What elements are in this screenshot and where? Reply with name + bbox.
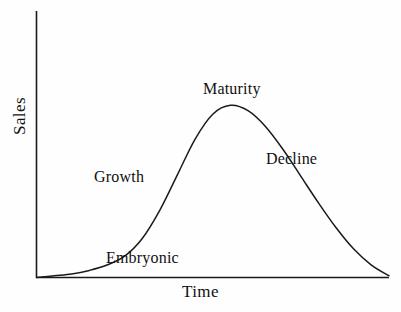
sales-curve	[37, 105, 390, 277]
chart-plot-area	[0, 0, 401, 312]
product-life-cycle-chart: Embryonic Growth Maturity Decline Time S…	[0, 0, 401, 312]
stage-label-maturity: Maturity	[203, 80, 261, 98]
x-axis-label: Time	[0, 282, 401, 302]
stage-label-decline: Decline	[266, 150, 317, 168]
stage-label-embryonic: Embryonic	[106, 249, 179, 267]
stage-label-growth: Growth	[94, 168, 144, 186]
y-axis-label: Sales	[10, 68, 30, 164]
